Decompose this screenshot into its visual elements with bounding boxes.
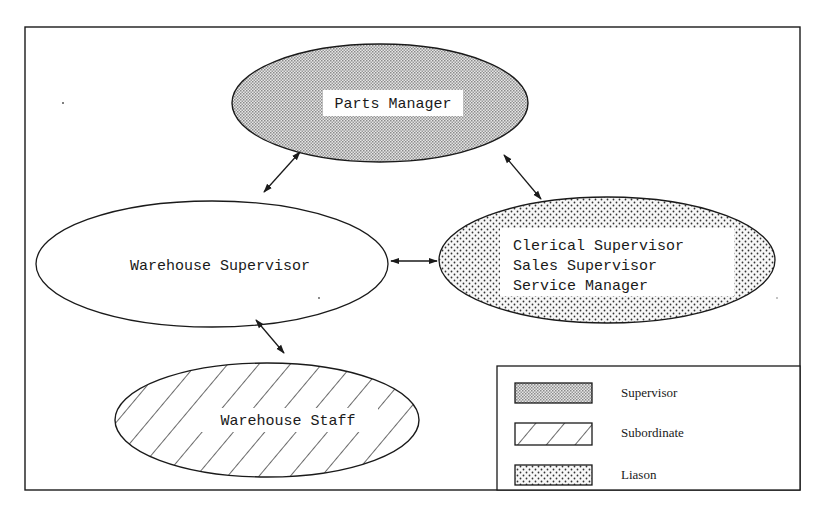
scan-speck xyxy=(318,297,320,299)
legend-label-subordinate: Subordinate xyxy=(621,425,684,440)
legend-swatch-subordinate xyxy=(515,423,592,445)
legend-label-liason: Liason xyxy=(621,467,657,482)
legend: Supervisor Subordinate Liason xyxy=(497,366,800,490)
node-parts-manager: Parts Manager xyxy=(232,44,528,162)
edge-parts-manager-warehouse-supervisor xyxy=(264,152,300,192)
node-label-line: Service Manager xyxy=(513,278,648,295)
node-label-line: Sales Supervisor xyxy=(513,258,657,275)
legend-swatch-supervisor xyxy=(515,383,592,403)
node-liason-group: Clerical Supervisor Sales Supervisor Ser… xyxy=(439,197,775,323)
edge-parts-manager-liason xyxy=(504,155,541,199)
legend-label-supervisor: Supervisor xyxy=(621,385,678,400)
legend-swatch-liason xyxy=(515,465,592,485)
edge-warehouse-supervisor-staff xyxy=(256,320,284,353)
node-label: Parts Manager xyxy=(334,96,451,113)
scan-speck xyxy=(62,102,64,104)
node-label-line: Clerical Supervisor xyxy=(513,238,684,255)
node-warehouse-staff: Warehouse Staff xyxy=(115,363,419,477)
node-label: Warehouse Supervisor xyxy=(130,258,310,275)
org-diagram: Parts Manager Warehouse Supervisor Cleri… xyxy=(0,0,824,515)
node-warehouse-supervisor: Warehouse Supervisor xyxy=(36,201,388,327)
scan-speck xyxy=(776,297,778,299)
node-label: Warehouse Staff xyxy=(220,413,355,430)
